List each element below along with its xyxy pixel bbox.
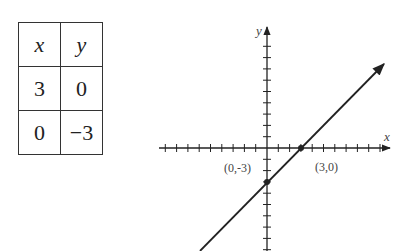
coordinate-graph: x y (0,-3) (3,0) — [0, 0, 412, 251]
graph-line — [200, 64, 384, 251]
point-label-y-intercept: (0,-3) — [224, 161, 251, 175]
point-label-x-intercept: (3,0) — [315, 160, 338, 174]
point-y-intercept — [264, 179, 270, 185]
point-x-intercept — [298, 145, 304, 151]
x-axis-label: x — [383, 129, 390, 144]
y-axis-label: y — [254, 23, 262, 38]
